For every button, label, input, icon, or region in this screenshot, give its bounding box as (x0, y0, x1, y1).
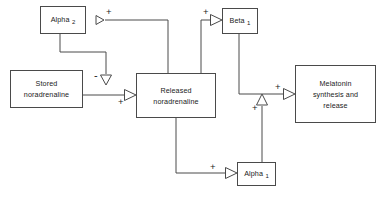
edge-alpha1-up-arrowhead (257, 94, 268, 105)
node-alpha1[interactable]: Alpha1 (237, 162, 276, 186)
node-beta1-subscript: 1 (247, 18, 250, 29)
sign-stored-to-released-plus: + (118, 97, 124, 107)
sign-released-to-alpha2-plus: + (106, 7, 112, 17)
sign-released-to-alpha1-plus: + (210, 162, 216, 172)
node-released-line2: noradrenaline (153, 96, 198, 107)
node-alpha2[interactable]: Alpha2 (40, 6, 86, 34)
edge-released-to-alpha2-arrowhead (96, 16, 104, 25)
sign-alpha2-inhibition-minus: - (94, 71, 98, 80)
sign-released-to-beta1-plus: + (203, 7, 209, 17)
edge-released-to-beta1-arrowhead (211, 15, 223, 26)
node-stored-line2: noradrenaline (24, 89, 69, 100)
node-melatonin-synthesis[interactable]: Melatonin synthesis and release (295, 65, 376, 123)
node-released-line1: Released (160, 85, 191, 96)
node-alpha2-subscript: 2 (72, 17, 75, 28)
edge-beta1-to-melatonin-arrowhead (284, 89, 296, 100)
node-beta1[interactable]: Beta1 (222, 8, 258, 34)
edge-alpha2-to-release-line (60, 34, 106, 74)
edge-released-to-alpha2-line (105, 20, 168, 73)
node-beta1-label: Beta1 (229, 15, 250, 27)
diagram-canvas: Alpha2 Beta1 Stored noradrenaline Releas… (0, 0, 382, 198)
node-alpha1-subscript: 1 (265, 171, 268, 182)
sign-beta1-to-melatonin-plus: + (275, 82, 281, 92)
edge-released-to-alpha1-arrowhead (226, 168, 238, 179)
node-stored-noradrenaline[interactable]: Stored noradrenaline (10, 70, 83, 108)
sign-alpha1-potentiation-plus: + (252, 103, 258, 113)
node-melatonin-line3: release (323, 100, 347, 111)
node-released-noradrenaline[interactable]: Released noradrenaline (136, 73, 216, 118)
node-melatonin-line1: Melatonin (319, 78, 351, 89)
node-alpha1-label: Alpha1 (244, 168, 269, 180)
edge-stored-to-released-arrowhead (125, 90, 137, 101)
node-melatonin-line2: synthesis and (313, 89, 358, 100)
edge-released-to-alpha1-line (176, 118, 226, 173)
edge-released-to-beta1-line (201, 20, 211, 73)
edge-alpha2-to-release-arrowhead (101, 75, 112, 85)
node-stored-line1: Stored (36, 78, 58, 89)
node-alpha2-label: Alpha2 (51, 14, 76, 26)
